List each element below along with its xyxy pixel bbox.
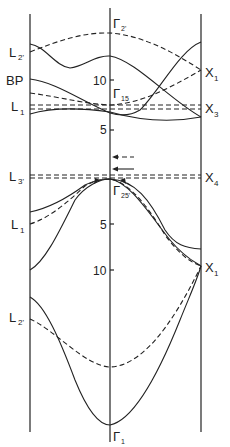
svg-text:L: L (11, 217, 18, 232)
label-l2p-bot: L 2' (9, 310, 24, 327)
arrow-head-dashed (112, 155, 118, 160)
label-l3p: L 3' (9, 169, 24, 186)
label-gamma2p: Γ 2' (113, 16, 126, 32)
svg-text:Γ: Γ (113, 86, 120, 101)
label-gamma1: Γ 1 (113, 429, 125, 445)
svg-text:Γ: Γ (113, 16, 120, 31)
band-gamma1 (30, 266, 201, 425)
svg-text:3: 3 (214, 110, 219, 119)
label-l1-top: L 1 (11, 99, 25, 117)
label-gamma15: Γ 15 (113, 86, 129, 102)
svg-text:X: X (205, 260, 214, 275)
label-x4: X 4 (205, 170, 219, 188)
svg-text:2': 2' (121, 25, 126, 32)
svg-text:15: 15 (121, 95, 129, 102)
label-l2p-top: L 2' (9, 45, 24, 62)
band-solid-bp (30, 42, 201, 115)
tick-label-upper-5: 5 (100, 123, 107, 137)
tick-label-lower-10: 10 (93, 264, 107, 278)
label-x1-bot: X 1 (205, 260, 219, 278)
label-bp: BP (6, 73, 23, 88)
band-dashed-l2p (30, 266, 201, 367)
svg-text:L: L (9, 310, 16, 325)
label-gamma25p: Γ 25' (113, 183, 130, 199)
band-structure-diagram: L 2' BP L 1 L 3' L 1 L 2' Γ 2' Γ 15 Γ 25… (0, 0, 230, 447)
svg-text:Γ: Γ (113, 183, 120, 198)
svg-text:1: 1 (214, 269, 219, 278)
svg-text:3': 3' (18, 177, 24, 186)
svg-text:2': 2' (18, 318, 24, 327)
svg-text:X: X (205, 170, 214, 185)
label-x1-top: X 1 (205, 65, 219, 83)
svg-text:1: 1 (20, 108, 25, 117)
label-x3: X 3 (205, 101, 219, 119)
svg-text:L: L (9, 169, 16, 184)
svg-text:25': 25' (121, 192, 130, 199)
tick-label-upper-10: 10 (93, 74, 107, 88)
svg-text:1: 1 (214, 74, 219, 83)
svg-text:L: L (11, 99, 18, 114)
svg-text:1: 1 (121, 438, 125, 445)
svg-text:1: 1 (20, 226, 25, 235)
svg-text:4: 4 (214, 179, 219, 188)
arrow-head-solid (112, 167, 118, 172)
tick-label-lower-5: 5 (100, 218, 107, 232)
svg-text:Γ: Γ (113, 429, 120, 444)
svg-text:X: X (205, 101, 214, 116)
svg-text:X: X (205, 65, 214, 80)
svg-text:2': 2' (18, 53, 24, 62)
label-l1-mid: L 1 (11, 217, 25, 235)
svg-text:L: L (9, 45, 16, 60)
